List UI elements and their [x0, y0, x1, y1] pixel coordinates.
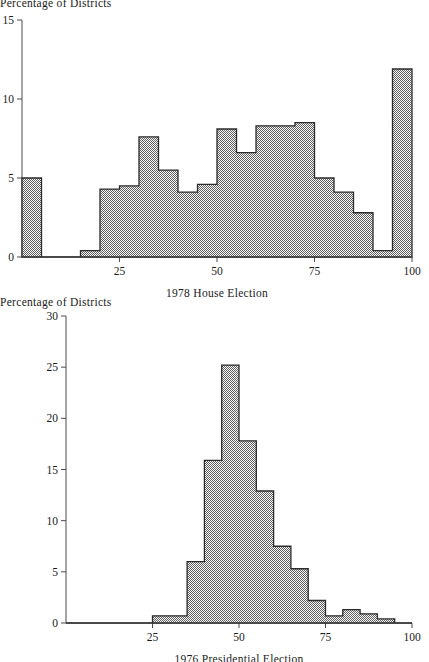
- x-tick-label: 100: [403, 265, 421, 277]
- y-tick-label: 10: [3, 93, 15, 105]
- histogram-house: 0510152550751001978 House Election: [0, 0, 429, 300]
- x-tick-label: 25: [114, 265, 126, 277]
- histogram-bars: [66, 365, 412, 623]
- histogram-president: 0510152025302550751001976 Presidential E…: [0, 300, 429, 662]
- x-axis-label: 1976 Presidential Election: [174, 653, 303, 662]
- y-tick-label: 5: [8, 172, 14, 184]
- y-axis-label-top: Percentage of Districts: [0, 0, 112, 9]
- chart-panel-president: Percentage of Districts 0510152025302550…: [0, 300, 429, 662]
- x-axis-label: 1978 House Election: [166, 287, 268, 299]
- y-tick-label: 20: [47, 412, 59, 424]
- y-tick-label: 0: [8, 251, 14, 263]
- y-tick-label: 5: [52, 566, 58, 578]
- x-tick-label: 25: [147, 631, 159, 643]
- y-tick-label: 25: [47, 361, 59, 373]
- x-tick-label: 50: [233, 631, 245, 643]
- y-tick-label: 15: [47, 464, 59, 476]
- x-tick-label: 100: [403, 631, 421, 643]
- y-tick-label: 30: [47, 310, 59, 322]
- x-tick-label: 50: [211, 265, 223, 277]
- chart-panel-house: Percentage of Districts 0510152550751001…: [0, 0, 429, 300]
- y-tick-label: 10: [47, 515, 59, 527]
- histogram-bars: [22, 69, 412, 257]
- y-tick-label: 0: [52, 617, 58, 629]
- y-axis-label-bottom: Percentage of Districts: [0, 296, 112, 308]
- x-tick-label: 75: [309, 265, 321, 277]
- x-tick-label: 75: [320, 631, 332, 643]
- y-tick-label: 15: [3, 14, 15, 26]
